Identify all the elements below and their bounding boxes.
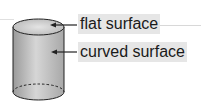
flat-surface-shape xyxy=(13,19,64,35)
curved-surface-shape xyxy=(13,27,64,100)
flat-surface-label: flat surface xyxy=(78,14,160,34)
scan-line xyxy=(160,25,201,26)
cylinder-diagram: flat surface curved surface xyxy=(0,0,201,108)
scan-line xyxy=(0,19,14,20)
curved-surface-label: curved surface xyxy=(78,42,187,62)
